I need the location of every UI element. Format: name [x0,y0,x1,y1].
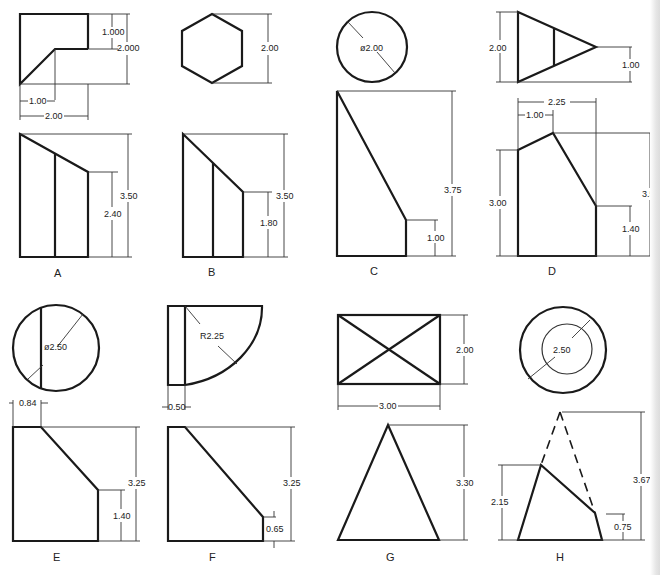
dim-g-300: 3.00 [379,401,397,411]
figure-f-top-view: R2.25 0.50 [162,306,262,412]
dim-e-diameter: ø2.50 [44,342,67,352]
page-edge-shadow [650,0,660,575]
dim-a-100: 1.00 [29,96,47,106]
figure-d: 2.00 1.00 2.25 1.00 3.00 3.50 [489,12,660,277]
dim-a-350: 3.50 [120,191,138,201]
figure-h: 2.50 3.67 2.15 0.75 H [491,307,651,563]
dim-h-250: 2.50 [553,345,571,355]
figure-f-front-view: 3.25 0.65 [168,427,301,548]
figure-a-top-view: 1.000 2.000 1.00 2.00 [20,14,140,121]
figure-a: 1.000 2.000 1.00 2.00 3.50 2.40 [20,14,140,279]
figure-a-front-view: 3.50 2.40 [20,134,138,257]
dim-c-diameter: ø2.00 [360,43,383,53]
figure-d-front-view: 2.25 1.00 3.00 3.50 1.40 [489,97,660,256]
figure-label-f: F [209,551,216,563]
figure-label-h: H [556,551,564,563]
dim-h-215: 2.15 [491,497,509,507]
dim-g-200: 2.00 [456,345,474,355]
dim-a-1000: 1.000 [102,27,125,37]
figure-g-top-view: 2.00 3.00 [338,315,474,411]
drawing-sheet: 1.000 2.000 1.00 2.00 3.50 2.40 [0,0,660,575]
dim-b-350: 3.50 [276,191,294,201]
figure-c: ø2.00 3.75 1.00 C [337,12,462,277]
dim-g-330: 3.30 [456,478,474,488]
dim-e-084: 0.84 [19,398,37,408]
dim-d-100: 1.00 [526,110,544,120]
dim-f-050: 0.50 [168,402,186,412]
figure-h-top-view: 2.50 [520,307,606,393]
figure-c-front-view: 3.75 1.00 [337,91,462,256]
figure-label-c: C [370,265,378,277]
figure-label-a: A [54,267,62,279]
dim-e-140: 1.40 [113,511,131,521]
figure-label-g: G [386,551,395,563]
figure-f: R2.25 0.50 3.25 0.65 F [162,306,301,563]
dim-a-200: 2.00 [45,111,63,121]
figure-b-front-view: 3.50 1.80 [183,134,294,257]
dim-h-367: 3.67 [633,475,651,485]
dim-f-065: 0.65 [266,524,284,534]
figure-b: 2.00 3.50 1.80 B [182,14,294,278]
dim-f-radius: R2.25 [200,331,224,341]
dim-f-325: 3.25 [283,478,301,488]
figure-e-top-view: ø2.50 [13,305,99,391]
dim-h-075: 0.75 [614,522,632,532]
dim-b-180: 1.80 [260,218,278,228]
dim-c-375: 3.75 [444,185,462,195]
dim-b-200: 2.00 [261,43,279,53]
dim-a-2000: 2.000 [117,43,140,53]
figure-g: 2.00 3.00 3.30 G [338,315,474,563]
dim-c-100: 1.00 [427,233,445,243]
figure-label-e: E [53,551,60,563]
dim-d-top-100: 1.00 [622,60,640,70]
dim-a-240: 2.40 [104,209,122,219]
figure-h-front-view: 3.67 2.15 0.75 [491,412,651,540]
dim-e-325: 3.25 [128,478,146,488]
figure-e-front-view: 0.84 3.25 1.40 [9,398,146,541]
figure-g-front-view: 3.30 [338,425,474,540]
figure-d-top-view: 2.00 1.00 [489,12,640,82]
dim-d-140: 1.40 [622,224,640,234]
figure-b-top-view: 2.00 [182,14,279,83]
dim-d-300: 3.00 [489,198,507,208]
figure-label-b: B [208,266,215,278]
figure-e: ø2.50 0.84 3.25 1.40 E [9,305,146,563]
dim-d-225: 2.25 [548,97,566,107]
figure-label-d: D [548,265,556,277]
dim-d-top-200: 2.00 [489,43,507,53]
figure-c-top-view: ø2.00 [337,12,407,82]
